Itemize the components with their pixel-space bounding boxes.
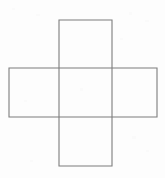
paper-speckle	[12, 8, 15, 10]
paper-speckle	[120, 38, 123, 40]
figure-container	[0, 0, 165, 178]
horizontal-bar-rectangle	[9, 68, 157, 117]
paper-speckle	[36, 14, 40, 16]
paper-speckle	[132, 136, 136, 139]
paper-noise-layer	[12, 8, 149, 162]
paper-speckle	[30, 160, 33, 162]
cross-shape-layer	[9, 20, 157, 166]
paper-speckle	[146, 150, 149, 152]
vertical-bar-rectangle	[59, 20, 112, 166]
cross-net-diagram	[0, 0, 165, 178]
paper-speckle	[145, 20, 149, 22]
paper-speckle	[129, 12, 132, 15]
paper-speckle	[80, 88, 83, 91]
paper-speckle	[24, 100, 27, 102]
